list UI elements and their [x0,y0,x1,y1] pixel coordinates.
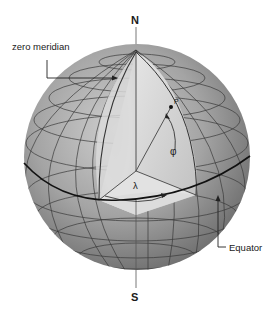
north-label: N [131,14,139,26]
globe-coordinate-diagram: N S zero meridian Equator φ λ P [0,0,279,312]
point-p-label: P [174,98,179,105]
latitude-phi-label: φ [170,146,177,157]
equator-label: Equator [229,242,262,253]
zero-meridian-label: zero meridian [12,41,70,52]
south-label: S [131,291,138,303]
longitude-lambda-label: λ [133,180,138,191]
globe-svg: N S zero meridian Equator φ λ P [0,0,279,312]
point-p-marker [169,105,173,109]
